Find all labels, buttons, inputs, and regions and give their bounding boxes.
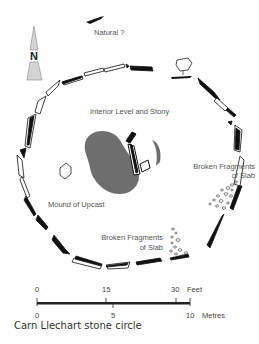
label-broken-right-2: of Slab bbox=[160, 171, 255, 180]
outlier-stone bbox=[86, 16, 104, 24]
label-broken-bottom-1: Broken Fragments bbox=[80, 233, 163, 242]
scale-bar bbox=[37, 298, 190, 308]
scale-metre-unit: Metres bbox=[202, 311, 225, 320]
label-broken-bottom-2: of Slab bbox=[80, 243, 163, 252]
scale-feet-unit: Feet bbox=[187, 285, 202, 294]
label-mound: Mound of Upcast bbox=[48, 200, 105, 209]
fragments-bottom bbox=[170, 228, 188, 257]
scale-metre-5: 5 bbox=[111, 311, 115, 320]
scale-feet-0: 0 bbox=[35, 285, 39, 294]
figure-caption: Carn Llechart stone circle bbox=[14, 320, 142, 331]
label-interior: Interior Level and Stony bbox=[90, 107, 169, 116]
label-broken-right-1: Broken Fragments bbox=[160, 162, 255, 171]
outlier-stone-outline bbox=[176, 58, 192, 71]
label-natural: Natural ? bbox=[94, 28, 124, 37]
north-letter: N bbox=[30, 50, 38, 62]
scale-metre-10: 10 bbox=[186, 311, 194, 320]
scale-metre-0: 0 bbox=[35, 311, 39, 320]
scale-feet-30: 30 bbox=[171, 285, 179, 294]
small-stone-outline bbox=[60, 163, 71, 179]
scale-feet-15: 15 bbox=[102, 285, 110, 294]
